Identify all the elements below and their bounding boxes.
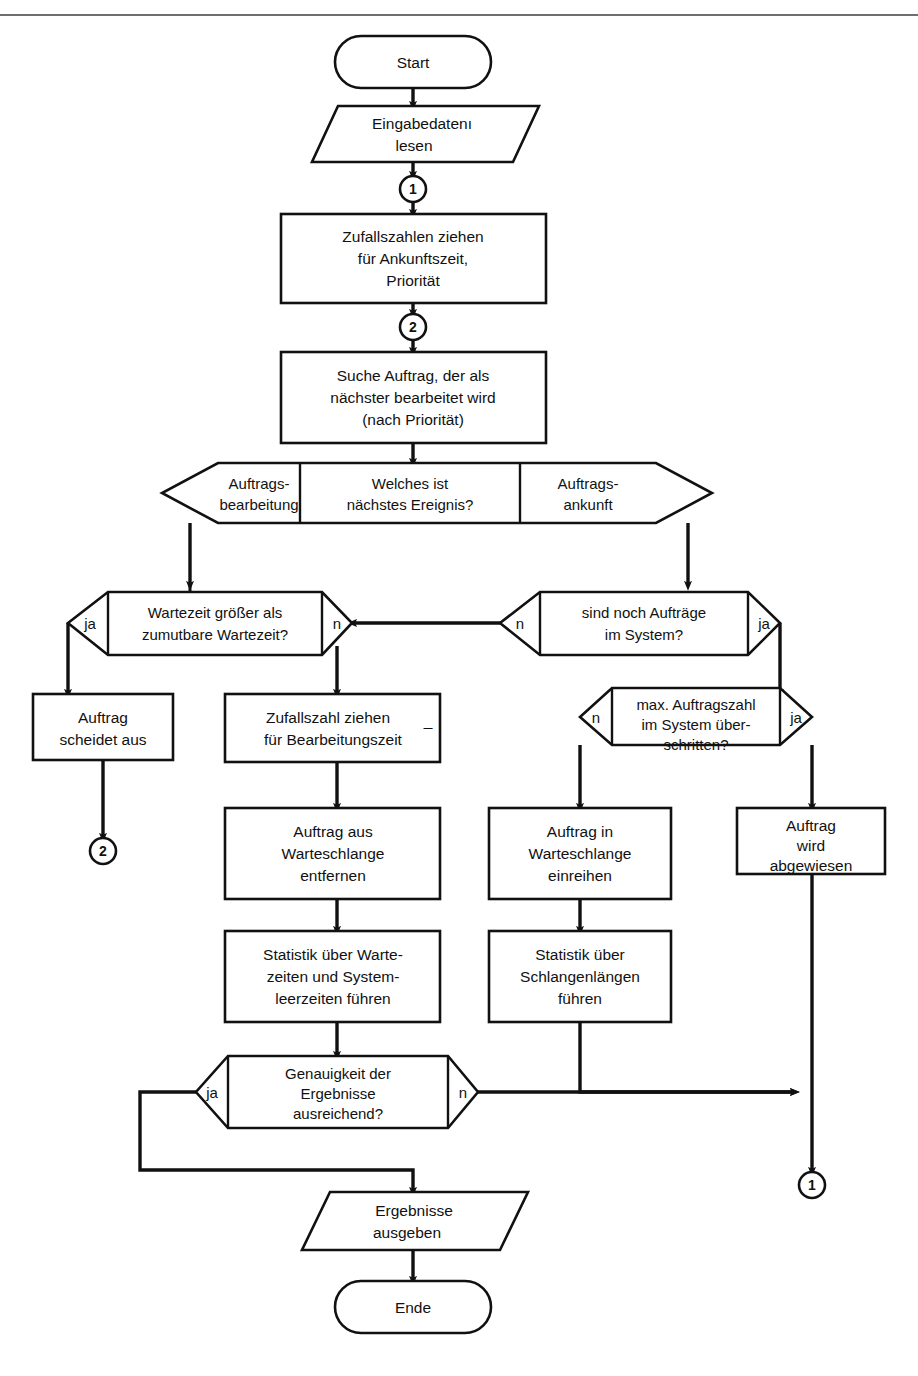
node-random-service-line1: Zufallszahl ziehen (266, 709, 390, 726)
node-wait-check[interactable]: Wartezeit größer als zumutbare Wartezeit… (68, 592, 352, 655)
node-random-arrival[interactable]: Zufallszahlen ziehen für Ankunftszeit, P… (281, 214, 546, 303)
node-max-jobs-line2: im System über- (641, 716, 750, 733)
node-stat-queue-line2: Schlangenlängen (520, 968, 640, 985)
node-output-results-line1: Ergebnisse (375, 1202, 453, 1219)
node-enqueue-line2: Warteschlange (529, 845, 632, 862)
node-search-job-line1: Suche Auftrag, der als (337, 367, 490, 384)
node-stat-queue-line3: führen (558, 990, 602, 1007)
node-wait-check-line1: Wartezeit größer als (148, 604, 282, 621)
node-remove-queue[interactable]: Auftrag aus Warteschlange entfernen (225, 808, 440, 899)
node-random-arrival-line3: Priorität (386, 272, 440, 289)
node-event-switch-right-line1: Auftrags- (558, 475, 619, 492)
node-start[interactable]: Start (335, 36, 491, 88)
flowchart-page: Start Eingabedatenı lesen 1 Zufallszahle… (0, 0, 918, 1376)
node-accuracy-right-label: n (459, 1084, 467, 1101)
node-job-drops[interactable]: Auftrag scheidet aus (33, 694, 173, 760)
node-wait-check-left-label: ja (83, 615, 96, 632)
node-output-results-line2: ausgeben (373, 1224, 441, 1241)
node-search-job-line3: (nach Priorität) (362, 411, 464, 428)
node-random-service[interactable]: Zufallszahl ziehen für Bearbeitungszeit … (225, 694, 440, 762)
node-rejected-line3: abgewiesen (770, 857, 853, 874)
node-output-results[interactable]: Ergebnisse ausgeben (302, 1192, 528, 1250)
node-max-jobs-left-label: n (592, 709, 600, 726)
node-event-switch-left-line2: bearbeitung (219, 496, 298, 513)
node-max-jobs-right-label: ja (789, 709, 802, 726)
connector-1-bottom[interactable]: 1 (799, 1172, 825, 1198)
connector-2-top[interactable]: 2 (400, 314, 426, 340)
connector-1-top-label: 1 (409, 181, 417, 197)
node-enqueue[interactable]: Auftrag in Warteschlange einreihen (489, 808, 671, 899)
node-random-service-line2: für Bearbeitungszeit (264, 731, 403, 748)
node-event-switch[interactable]: Auftrags- bearbeitung Welches ist nächst… (162, 463, 712, 523)
node-random-service-mark: _ (423, 712, 433, 729)
node-max-jobs[interactable]: max. Auftragszahl im System über- schrit… (580, 688, 812, 753)
node-jobs-left-line1: sind noch Aufträge (582, 604, 706, 621)
flowchart-canvas: Start Eingabedatenı lesen 1 Zufallszahle… (0, 0, 918, 1376)
connector-1-bottom-label: 1 (808, 1177, 816, 1193)
node-rejected-line2: wird (796, 837, 825, 854)
node-start-label: Start (397, 54, 430, 71)
node-input-read[interactable]: Eingabedatenı lesen (312, 106, 539, 162)
node-search-job-line2: nächster bearbeitet wird (330, 389, 495, 406)
connector-2-top-label: 2 (409, 319, 417, 335)
node-stat-queue-line1: Statistik über (535, 946, 625, 963)
node-remove-queue-line3: entfernen (300, 867, 366, 884)
node-remove-queue-line1: Auftrag aus (293, 823, 373, 840)
connector-2-bottom[interactable]: 2 (90, 838, 116, 864)
node-accuracy-line1: Genauigkeit der (285, 1065, 391, 1082)
node-input-read-line2: lesen (395, 137, 432, 154)
node-jobs-left-left-label: n (516, 615, 524, 632)
node-random-arrival-line2: für Ankunftszeit, (358, 250, 468, 267)
node-stat-wait[interactable]: Statistik über Warte- zeiten und System-… (225, 931, 440, 1022)
node-max-jobs-line3: schritten? (663, 736, 728, 753)
node-accuracy[interactable]: Genauigkeit der Ergebnisse ausreichend? … (196, 1056, 478, 1128)
connector-2-bottom-label: 2 (99, 843, 107, 859)
node-accuracy-line3: ausreichend? (293, 1105, 383, 1122)
node-random-arrival-line1: Zufallszahlen ziehen (342, 228, 483, 245)
node-rejected-line1: Auftrag (786, 817, 836, 834)
node-accuracy-line2: Ergebnisse (300, 1085, 375, 1102)
node-search-job[interactable]: Suche Auftrag, der als nächster bearbeit… (281, 352, 546, 443)
node-jobs-left[interactable]: sind noch Aufträge im System? n ja (500, 592, 780, 655)
node-job-drops-line1: Auftrag (78, 709, 128, 726)
node-enqueue-line1: Auftrag in (547, 823, 613, 840)
node-wait-check-right-label: n (333, 615, 341, 632)
node-max-jobs-line1: max. Auftragszahl (636, 696, 755, 713)
node-wait-check-line2: zumutbare Wartezeit? (142, 626, 288, 643)
connector-1-top[interactable]: 1 (400, 176, 426, 202)
node-end-label: Ende (395, 1299, 431, 1316)
node-stat-wait-line1: Statistik über Warte- (263, 946, 403, 963)
node-jobs-left-right-label: ja (757, 615, 770, 632)
node-event-switch-center-line2: nächstes Ereignis? (347, 496, 474, 513)
node-jobs-left-line2: im System? (605, 626, 683, 643)
node-stat-queue[interactable]: Statistik über Schlangenlängen führen (489, 931, 671, 1022)
node-stat-wait-line3: leerzeiten führen (275, 990, 390, 1007)
node-rejected[interactable]: Auftrag wird abgewiesen (737, 808, 885, 874)
node-stat-wait-line2: zeiten und System- (267, 968, 400, 985)
node-end[interactable]: Ende (335, 1281, 491, 1333)
node-event-switch-center-line1: Welches ist (372, 475, 449, 492)
node-enqueue-line3: einreihen (548, 867, 612, 884)
node-event-switch-right-line2: ankunft (563, 496, 613, 513)
node-job-drops-line2: scheidet aus (59, 731, 146, 748)
node-remove-queue-line2: Warteschlange (282, 845, 385, 862)
node-accuracy-left-label: ja (205, 1084, 218, 1101)
node-event-switch-left-line1: Auftrags- (229, 475, 290, 492)
node-input-read-line1: Eingabedatenı (372, 115, 472, 132)
